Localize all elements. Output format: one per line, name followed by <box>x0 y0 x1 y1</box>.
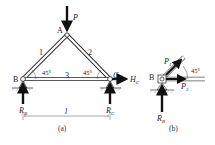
label-p1: P1 <box>163 57 171 67</box>
label-node-b-fbd: B <box>149 73 154 82</box>
angle-label-right: 45° <box>83 69 93 76</box>
label-p3: P3 <box>180 82 189 92</box>
label-p: P <box>72 13 78 22</box>
truss-diagram-a: P A B C 1 2 3 45° 45° RB RC HC <box>12 6 140 133</box>
label-member-3: 3 <box>65 71 69 80</box>
angle-label-b: 45° <box>191 67 201 74</box>
joint-b-free-body-diagram: P1 P3 45° B RB (b) <box>149 57 205 133</box>
label-node-a: A <box>57 26 63 35</box>
joint-b-pin <box>160 77 164 81</box>
label-hc: HC <box>129 75 140 85</box>
label-node-b: B <box>13 75 18 84</box>
label-rb-fbd: RB <box>156 114 165 124</box>
joint-a <box>65 33 69 37</box>
label-rb: RB <box>18 106 27 116</box>
caption-b: (b) <box>169 124 178 133</box>
label-span: l <box>65 107 68 116</box>
caption-a: (a) <box>58 124 67 133</box>
label-member-2: 2 <box>88 48 92 57</box>
label-member-1: 1 <box>39 48 43 57</box>
angle-label-left: 45° <box>42 69 52 76</box>
